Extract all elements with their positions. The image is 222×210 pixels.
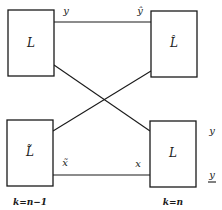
block-bottom-right-label: L	[168, 146, 177, 160]
block-top-right-label: L̂	[169, 35, 178, 50]
signal-x-tilde: x̃	[62, 157, 68, 168]
signal-y-right-upper: y	[208, 125, 215, 136]
stage-label-right: k=n	[163, 197, 183, 207]
block-bottom-left-label: L̃	[25, 144, 34, 159]
lattice-diagram: L L̂ L̃ L y ŷ x̃ x y y k=n−1 k=n	[0, 0, 222, 210]
block-top-left: L	[8, 10, 54, 76]
block-bottom-left: L̃	[7, 120, 53, 186]
signal-y-top-left: y	[62, 5, 69, 16]
signal-y-hat: ŷ	[136, 5, 143, 16]
block-top-right: L̂	[151, 11, 197, 77]
block-top-left-label: L	[26, 36, 35, 50]
signal-x: x	[135, 158, 141, 169]
signal-y-right-lower: y	[208, 169, 215, 180]
block-bottom-right: L	[150, 121, 196, 187]
stage-label-left: k=n−1	[13, 197, 47, 207]
